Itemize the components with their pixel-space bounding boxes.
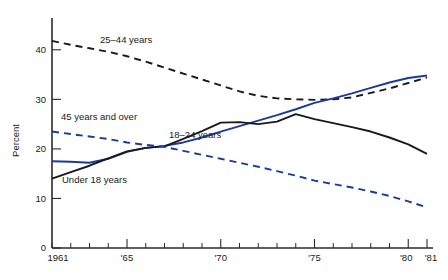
- series-line-3: [52, 114, 427, 178]
- series-annotation-3: 18–24 years: [169, 129, 222, 140]
- chart-ticks: [52, 50, 427, 248]
- x-axis-tick-label: '80: [400, 252, 412, 263]
- y-axis-tick-label: 0: [41, 242, 46, 253]
- y-axis-tick-label: 10: [35, 193, 46, 204]
- y-axis-title: Percent: [10, 124, 21, 157]
- y-axis-tick-labels: 010203040: [35, 44, 46, 253]
- x-axis-tick-labels: 1961'65'70'75'80'81: [47, 252, 437, 263]
- line-chart: 010203040 1961'65'70'75'80'81 Percent 25…: [0, 0, 448, 280]
- series-line-4: [52, 132, 427, 208]
- series-line-1: [52, 41, 427, 100]
- y-axis-tick-label: 30: [35, 94, 46, 105]
- series-annotation-1: 25–44 years: [100, 34, 153, 45]
- series-annotation-4: Under 18 years: [62, 174, 127, 185]
- chart-figure: 010203040 1961'65'70'75'80'81 Percent 25…: [0, 0, 448, 280]
- x-axis-tick-label: '81: [425, 252, 437, 263]
- y-axis-tick-label: 20: [35, 143, 46, 154]
- series-annotation-2: 45 years and over: [61, 111, 137, 122]
- x-axis-tick-label: '65: [121, 252, 133, 263]
- x-axis-tick-label: '70: [215, 252, 227, 263]
- y-axis-tick-label: 40: [35, 44, 46, 55]
- y-axis-title-text: Percent: [10, 124, 21, 157]
- x-axis-tick-label: 1961: [47, 252, 68, 263]
- x-axis-tick-label: '75: [308, 252, 320, 263]
